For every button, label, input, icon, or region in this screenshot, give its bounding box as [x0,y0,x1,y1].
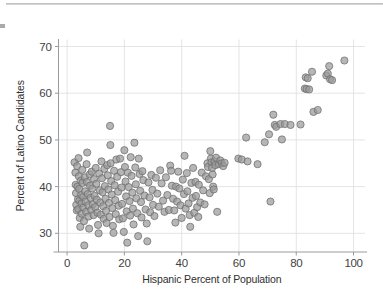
data-point [306,86,313,93]
data-point [201,201,208,208]
data-point [121,147,128,154]
y-tick-label: 30 [39,227,51,239]
data-point [171,207,178,214]
data-point [209,171,216,178]
data-point [183,169,190,176]
x-axis-title: Hispanic Percent of Population [142,273,281,285]
data-point [184,188,191,195]
data-point [221,159,228,166]
data-point [130,221,137,228]
data-point [132,181,139,188]
data-point [94,221,101,228]
data-point [75,155,82,162]
data-point [187,223,194,230]
data-point [172,219,179,226]
data-point [341,57,348,64]
data-point [146,194,153,201]
figure-container: 0204060801003040506070 Hispanic Percent … [0,0,383,301]
data-point [287,121,294,128]
data-point [124,239,131,246]
data-point [254,161,261,168]
data-point [179,176,186,183]
y-tick-label: 70 [39,41,51,53]
data-point [214,208,221,215]
y-tick-label: 50 [39,134,51,146]
y-tick-label: 60 [39,87,51,99]
data-points [71,57,348,249]
data-point [151,212,158,219]
data-point [157,167,164,174]
data-point [297,121,304,128]
data-point [120,228,127,235]
data-point [143,220,150,227]
y-axis-title: Percent of Latino Candidates [14,80,26,211]
data-point [83,161,90,168]
x-tick-label: 80 [290,257,302,269]
data-point [81,242,88,249]
data-point [86,225,93,232]
data-point [135,155,142,162]
data-point [167,167,174,174]
data-point [304,75,311,82]
data-point [106,122,113,129]
data-point [111,182,118,189]
data-point [261,139,268,146]
data-point [131,139,138,146]
data-point [139,168,146,175]
data-point [145,179,152,186]
data-point [84,149,91,156]
data-point [95,230,102,237]
data-point [265,131,272,138]
data-point [152,174,159,181]
x-tick-label: 40 [176,257,188,269]
data-point [326,63,333,70]
data-point [144,238,151,245]
data-point [154,190,161,197]
data-point [128,172,135,179]
data-point [210,186,217,193]
x-tick-label: 100 [344,257,362,269]
data-point [267,198,274,205]
data-point [162,174,169,181]
data-point [93,180,100,187]
x-tick-label: 20 [118,257,130,269]
data-point [127,154,134,161]
data-point [127,212,134,219]
data-point [200,187,207,194]
x-tick-label: 60 [233,257,245,269]
data-point [119,215,126,222]
data-point [195,213,202,220]
data-point [110,229,117,236]
scatter-plot: 0204060801003040506070 Hispanic Percent … [0,0,383,301]
y-tick-label: 40 [39,181,51,193]
data-point [118,200,125,207]
data-point [278,136,285,143]
data-point [178,214,185,221]
data-point [244,158,251,165]
data-point [175,168,182,175]
data-point [138,214,145,221]
data-point [192,192,199,199]
data-point [181,152,188,159]
data-point [132,164,139,171]
data-point [109,222,116,229]
data-point [137,198,144,205]
data-point [243,134,250,141]
x-tick-label: 0 [64,257,70,269]
data-point [207,148,214,155]
data-point [107,141,114,148]
data-point [135,233,142,240]
data-point [126,197,133,204]
data-point [328,77,335,84]
data-point [116,155,123,162]
data-point [314,106,321,113]
data-point [190,164,197,171]
data-point [270,111,277,118]
data-point [308,68,315,75]
